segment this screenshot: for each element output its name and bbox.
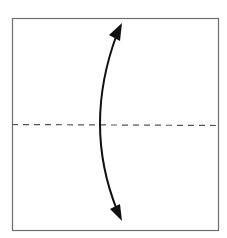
origami-fold-diagram	[0, 0, 227, 238]
